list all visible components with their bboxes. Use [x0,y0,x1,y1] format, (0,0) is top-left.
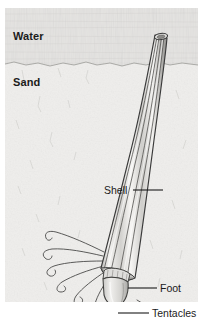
water-label: Water [13,30,44,42]
scene-panel [5,8,198,321]
illustration-figure: Water Sand Shell Foot Tentacles [0,0,214,332]
shell-callout-label: Shell [104,184,127,196]
sand-label: Sand [13,76,40,88]
tusk-shell-illustration [0,0,214,332]
foot-callout-label: Foot [160,282,181,294]
tentacles-callout-label: Tentacles [152,307,196,319]
